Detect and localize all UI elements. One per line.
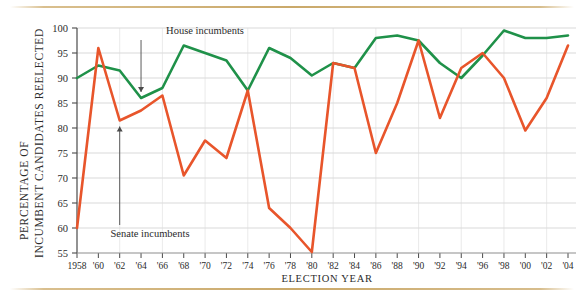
y-tick-label-90: 90	[58, 73, 69, 84]
y-tick-label-75: 75	[58, 148, 69, 159]
figure-container: PERCENTAGE OF INCUMBENT CANDIDATES REELE…	[0, 0, 584, 299]
chart-plot-area: 556065707580859095100 1958'60'62'64'66'6…	[0, 0, 584, 299]
y-tick-label-100: 100	[52, 23, 68, 34]
x-tick-label-1964: '64	[135, 261, 146, 271]
x-tick-label-1966: '66	[157, 261, 168, 271]
annotation-label-senate-incumbents: Senate incumbents	[110, 228, 189, 239]
annotation-arrowhead-senate-incumbents	[117, 127, 123, 132]
y-tick-label-70: 70	[58, 173, 69, 184]
x-tick-label-1978: '78	[285, 261, 296, 271]
x-tick-label-1996: '96	[477, 261, 488, 271]
y-axis-ticks: 556065707580859095100	[52, 23, 77, 259]
x-tick-label-1958: 1958	[68, 261, 87, 271]
grid-lines	[77, 28, 576, 253]
series-line-senate-incumbents	[77, 41, 568, 253]
x-tick-label-2002: '02	[541, 261, 552, 271]
line-chart-svg: 556065707580859095100 1958'60'62'64'66'6…	[0, 0, 584, 299]
x-tick-label-1990: '90	[413, 261, 424, 271]
x-tick-label-1998: '98	[498, 261, 509, 271]
data-series-layer	[77, 31, 568, 253]
x-tick-label-1960: '60	[93, 261, 104, 271]
y-tick-label-80: 80	[58, 123, 69, 134]
x-tick-label-1992: '92	[434, 261, 445, 271]
x-axis-title: ELECTION YEAR	[281, 273, 372, 284]
x-tick-label-2004: '04	[562, 261, 573, 271]
x-tick-label-1980: '80	[306, 261, 317, 271]
x-tick-label-1988: '88	[392, 261, 403, 271]
y-tick-label-85: 85	[58, 98, 69, 109]
x-tick-label-1972: '72	[221, 261, 232, 271]
series-line-house-incumbents	[77, 31, 568, 99]
x-tick-label-1970: '70	[199, 261, 210, 271]
x-axis-ticks: 1958'60'62'64'66'68'70'72'74'76'78'80'82…	[68, 253, 574, 271]
x-tick-label-1986: '86	[370, 261, 381, 271]
x-tick-label-1994: '94	[456, 261, 467, 271]
x-tick-label-1982: '82	[328, 261, 339, 271]
y-tick-label-60: 60	[58, 223, 69, 234]
y-tick-label-65: 65	[58, 198, 69, 209]
y-tick-label-55: 55	[58, 248, 69, 259]
annotation-label-house-incumbents: House incumbents	[166, 25, 244, 36]
x-tick-label-2000: '00	[520, 261, 531, 271]
x-tick-label-1962: '62	[114, 261, 125, 271]
x-tick-label-1976: '76	[264, 261, 275, 271]
x-tick-label-1968: '68	[178, 261, 189, 271]
x-tick-label-1984: '84	[349, 261, 360, 271]
y-tick-label-95: 95	[58, 48, 69, 59]
x-tick-label-1974: '74	[242, 261, 253, 271]
annotation-arrowhead-house-incumbents	[138, 87, 144, 92]
